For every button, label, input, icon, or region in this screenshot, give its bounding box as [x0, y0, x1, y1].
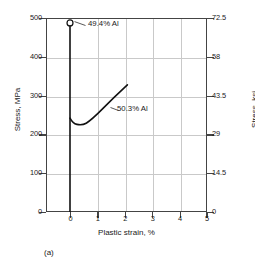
data-layer [46, 18, 207, 212]
x-axis-title: Plastic strain, % [46, 228, 207, 237]
xtick-label-3: 3 [144, 215, 162, 223]
ytick-label-right-58: 58 [212, 53, 242, 60]
ytick-label-right-14-5: 14.5 [212, 169, 242, 176]
y-axis-title-right: Stress, ksi [250, 70, 256, 150]
ytick-label-right-43-5: 43.5 [212, 92, 242, 99]
xtick-label-1: 1 [89, 215, 107, 223]
figure-caption: (a) [44, 248, 54, 257]
open-circle-marker-49-4 [67, 20, 73, 26]
ytick-label-right-0: 0 [212, 208, 242, 215]
leader-line-49-4 [75, 22, 86, 26]
xtick-label-4: 4 [171, 215, 189, 223]
ytick-label-left-400: 400 [14, 53, 42, 60]
ytick-label-left-500: 500 [14, 14, 42, 21]
y-axis-title-left: Stress, MPa [13, 70, 22, 150]
ytick-label-right-72-5: 72.5 [212, 14, 242, 21]
ytick-label-left-100: 100 [14, 169, 42, 176]
xtick-label-0: 0 [62, 215, 80, 223]
annotation-50-3-al: 50.3% Al [117, 104, 148, 113]
figure-stress-plastic-strain: 500 400 300 200 100 0 72.5 58 43.5 29 14… [0, 0, 255, 269]
ytick-label-left-0: 0 [14, 208, 42, 215]
ytick-label-right-29: 29 [212, 130, 242, 137]
annotation-49-4-al: 49.4% Al [88, 19, 119, 28]
xtick-label-5: 5 [198, 215, 216, 223]
xtick-label-2: 2 [116, 215, 134, 223]
